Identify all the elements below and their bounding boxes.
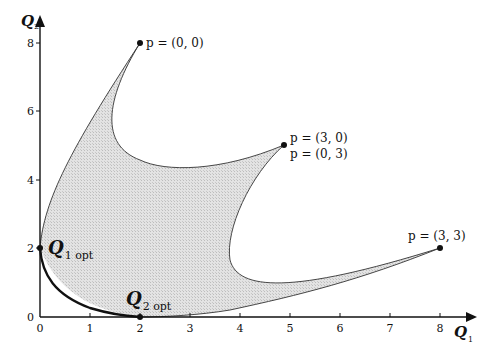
label-p03: p = (0, 3) — [290, 147, 348, 161]
x-tick-3: 3 — [187, 322, 194, 335]
y-axis-title: Q2 — [21, 12, 39, 31]
label-p33: p = (3, 3) — [408, 229, 466, 243]
q2-opt-marker — [137, 314, 143, 320]
x-tick-5: 5 — [287, 322, 294, 335]
x-tick-0: 0 — [37, 322, 44, 335]
y-tick-4: 4 — [27, 174, 34, 187]
y-tick-labels: 0 2 4 6 8 — [27, 37, 34, 324]
y-tick-8: 8 — [27, 37, 34, 50]
x-tick-8: 8 — [437, 322, 444, 335]
y-tick-6: 6 — [27, 105, 34, 118]
x-axis-title: Q1 — [454, 323, 473, 344]
point-p00-marker — [137, 40, 143, 46]
label-p30: p = (3, 0) — [290, 131, 348, 145]
point-p33-marker — [437, 245, 443, 251]
x-tick-labels: 0 1 2 3 4 5 6 7 8 — [37, 322, 444, 335]
x-axis-arrow-icon — [466, 312, 477, 322]
reachable-region — [40, 43, 440, 317]
y-tick-0: 0 — [27, 311, 34, 324]
x-tick-1: 1 — [87, 322, 94, 335]
point-p30-marker — [281, 142, 287, 148]
q1-opt-marker — [37, 245, 43, 251]
y-tick-2: 2 — [27, 242, 34, 255]
x-tick-7: 7 — [387, 322, 394, 335]
diagram-canvas: 0 1 2 3 4 5 6 7 8 0 2 4 6 8 Q1 Q2 p = (0… — [0, 0, 496, 353]
x-tick-6: 6 — [337, 322, 344, 335]
label-p00: p = (0, 0) — [146, 36, 204, 50]
x-tick-4: 4 — [237, 322, 244, 335]
diagram-svg: 0 1 2 3 4 5 6 7 8 0 2 4 6 8 Q1 Q2 p = (0… — [0, 0, 496, 353]
x-tick-2: 2 — [137, 322, 144, 335]
boundary-upper-inner — [112, 43, 284, 168]
